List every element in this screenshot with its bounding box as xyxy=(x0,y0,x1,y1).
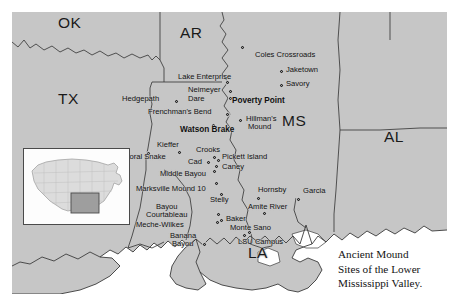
site-marker[interactable] xyxy=(216,158,221,163)
state-label-tx: TX xyxy=(58,90,79,108)
site-marker[interactable] xyxy=(256,196,261,201)
state-label-ok: OK xyxy=(58,14,81,32)
state-label-al: AL xyxy=(384,128,404,146)
inset-locator-map[interactable] xyxy=(23,148,130,225)
site-marker[interactable] xyxy=(262,211,267,216)
site-label-pickett-island: Pickett Island xyxy=(222,153,267,161)
site-marker[interactable] xyxy=(216,212,221,217)
site-marker[interactable] xyxy=(206,160,211,165)
site-marker[interactable] xyxy=(215,220,220,225)
site-marker[interactable] xyxy=(214,181,219,186)
inset-usa-outline xyxy=(24,149,129,224)
site-label-poverty-point: Poverty Point xyxy=(232,97,285,105)
site-label-frenchmans-bend: Frenchman's Bend xyxy=(148,108,212,116)
site-label-monte-sano: Monte Sano xyxy=(230,224,271,232)
site-label-hornsby: Hornsby xyxy=(258,186,286,194)
site-label-lsu-campus: LSU Campus xyxy=(238,238,283,246)
site-label-jaketown: Jaketown xyxy=(286,66,318,74)
site-label-amite-river: Amite River xyxy=(248,203,287,211)
site-label-cad: Cad xyxy=(188,158,202,166)
site-marker[interactable] xyxy=(177,150,182,155)
site-marker[interactable] xyxy=(238,118,243,123)
site-label-courtableau: Courtableau xyxy=(146,211,187,219)
site-marker[interactable] xyxy=(296,197,301,202)
site-label-kieffer: Kieffer xyxy=(157,141,179,149)
site-label-hillmans-mound-line2: Mound xyxy=(248,123,271,131)
site-label-middle-bayou: Middle Bayou xyxy=(160,170,206,178)
site-label-coral-snake: Coral Snake xyxy=(124,153,166,161)
map-figure: OK AR TX MS AL LA Coles Crossroads Lake … xyxy=(0,0,460,306)
caption-line-1: Ancient Mound xyxy=(338,247,453,262)
site-label-crooks: Crooks xyxy=(196,146,220,154)
caption-line-3: Mississippi Valley. xyxy=(338,276,453,291)
map-caption: Ancient Mound Sites of the Lower Mississ… xyxy=(338,247,453,291)
site-label-caney: Caney xyxy=(222,163,244,171)
site-marker[interactable] xyxy=(212,169,217,174)
site-label-coles-crossroads: Coles Crossroads xyxy=(255,51,315,59)
site-label-watson-brake: Watson Brake xyxy=(180,126,234,134)
site-label-marksville-mound-10: Marksville Mound 10 xyxy=(136,185,206,193)
site-label-lake-enterprise: Lake Enterprise xyxy=(178,73,231,81)
site-marker[interactable] xyxy=(240,45,245,50)
site-label-meche-wilkes: Meche-Wilkes xyxy=(136,221,184,229)
site-marker[interactable] xyxy=(202,242,207,247)
site-label-hedgepath: Hedgepath xyxy=(122,95,159,103)
site-label-stelly: Stelly xyxy=(210,196,229,204)
site-marker[interactable] xyxy=(279,83,284,88)
site-label-garcia: Garcia xyxy=(303,187,325,195)
site-label-dare: Dare xyxy=(188,95,204,103)
site-label-savory: Savory xyxy=(286,80,310,88)
site-marker[interactable] xyxy=(225,112,230,117)
site-marker[interactable] xyxy=(279,69,284,74)
state-label-ms: MS xyxy=(282,112,306,130)
site-marker[interactable] xyxy=(228,89,233,94)
state-label-la: LA xyxy=(248,244,268,262)
caption-line-2: Sites of the Lower xyxy=(338,262,453,277)
site-marker[interactable] xyxy=(174,99,179,104)
inset-highlight-rect xyxy=(71,193,99,213)
state-label-ar: AR xyxy=(180,24,203,42)
site-label-banana-bayou-line2: Bayou xyxy=(172,240,194,248)
